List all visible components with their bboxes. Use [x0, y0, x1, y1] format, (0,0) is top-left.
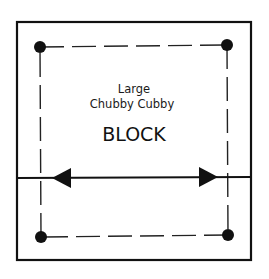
- label-chubby-cubby: Chubby Cubby: [90, 97, 175, 111]
- corner-dot-top-left: [34, 41, 46, 53]
- arrow-right-icon: [199, 167, 218, 187]
- arrow-left-icon: [52, 168, 71, 188]
- label-large: Large: [118, 82, 150, 96]
- corner-dot-bottom-right: [222, 229, 234, 241]
- corner-dot-top-right: [221, 39, 233, 51]
- corner-dot-bottom-left: [35, 231, 47, 243]
- block-diagram: Large Chubby Cubby BLOCK: [0, 0, 269, 279]
- label-block: BLOCK: [102, 123, 166, 145]
